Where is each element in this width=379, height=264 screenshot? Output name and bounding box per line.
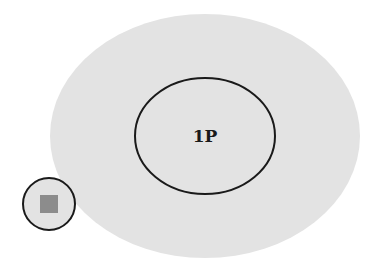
diagram-canvas: 1P bbox=[0, 0, 379, 264]
square-element bbox=[40, 195, 58, 213]
inner-ellipse-label: 1P bbox=[193, 126, 218, 146]
diagram-svg: 1P bbox=[0, 0, 379, 264]
